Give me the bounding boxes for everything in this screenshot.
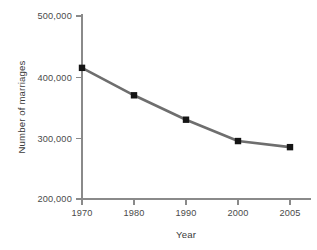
data-point-2005 — [287, 144, 293, 150]
data-point-1990 — [183, 117, 189, 123]
y-axis-title: Number of marriages — [16, 60, 27, 153]
x-tick-label-1990: 1990 — [175, 208, 196, 218]
y-tick-label-400000: 400,000 — [37, 73, 72, 83]
y-tick-label-200000: 200,000 — [37, 194, 72, 204]
x-tick-label-1970: 1970 — [71, 208, 92, 218]
data-point-2000 — [235, 138, 241, 144]
x-axis-title: Year — [176, 229, 197, 240]
data-point-1970 — [79, 65, 85, 71]
y-tick-label-300000: 300,000 — [37, 134, 72, 144]
x-tick-label-2000: 2000 — [227, 208, 248, 218]
x-tick-label-1980: 1980 — [123, 208, 144, 218]
chart-background — [0, 0, 317, 250]
data-point-1980 — [131, 92, 137, 98]
chart-container: 500,000 400,000 300,000 200,000 1970 198… — [0, 0, 317, 250]
y-tick-label-500000: 500,000 — [37, 11, 72, 21]
x-tick-label-2005: 2005 — [279, 208, 300, 218]
marriages-line-chart: 500,000 400,000 300,000 200,000 1970 198… — [0, 0, 317, 250]
